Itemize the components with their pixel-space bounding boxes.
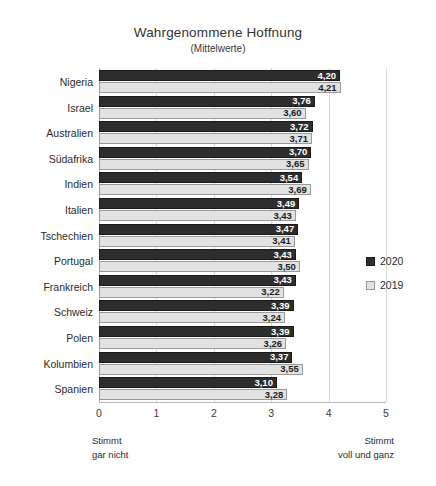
bar-value-label: 3,72	[290, 122, 309, 132]
bar-2019: 3,69	[99, 184, 311, 195]
category-label: Kolumbien	[0, 358, 93, 370]
legend-item-2019[interactable]: 2019	[366, 276, 436, 294]
category-label: Schweiz	[0, 306, 93, 318]
bar-2019: 3,65	[99, 159, 309, 170]
bar-2019: 3,71	[99, 133, 312, 144]
bar-value-label: 3,22	[261, 287, 280, 297]
bar-value-label: 3,24	[262, 313, 281, 323]
bar-2020: 3,76	[99, 96, 315, 107]
chart-subtitle: (Mittelwerte)	[0, 42, 436, 56]
legend-label: 2020	[380, 255, 403, 267]
bar-2019: 3,50	[99, 261, 300, 272]
category-axis-labels: NigeriaIsraelAustralienSüdafrikaIndienIt…	[0, 68, 93, 402]
category-label: Portugal	[0, 255, 93, 267]
legend-swatch-icon	[366, 281, 375, 290]
category-label: Israel	[0, 102, 93, 114]
bar-group: 3,723,71	[99, 121, 386, 146]
bar-2020: 3,39	[99, 326, 294, 337]
anchor-label-low: Stimmt gar nicht	[92, 434, 128, 462]
bar-value-label: 4,20	[318, 71, 337, 81]
bar-value-label: 3,76	[292, 96, 311, 106]
bar-2019: 3,26	[99, 338, 286, 349]
bar-2020: 3,54	[99, 172, 302, 183]
bar-2019: 3,28	[99, 389, 287, 400]
bar-2020: 3,70	[99, 147, 311, 158]
bar-2020: 3,43	[99, 275, 296, 286]
category-label: Spanien	[0, 383, 93, 395]
bar-value-label: 3,43	[273, 275, 292, 285]
bar-value-label: 3,70	[289, 147, 308, 157]
x-tick-label: 2	[211, 406, 217, 420]
bar-value-label: 3,43	[273, 211, 292, 221]
bar-value-label: 3,37	[270, 352, 289, 362]
bar-2020: 3,72	[99, 121, 313, 132]
category-label: Südafrika	[0, 153, 93, 165]
anchor-low-line2: gar nicht	[92, 448, 128, 462]
bar-value-label: 3,49	[277, 199, 296, 209]
category-label: Australien	[0, 127, 93, 139]
category-label: Nigeria	[0, 76, 93, 88]
bar-value-label: 4,21	[318, 83, 337, 93]
legend-item-2020[interactable]: 2020	[366, 252, 436, 270]
bar-2020: 4,20	[99, 70, 340, 81]
bar-2019: 3,24	[99, 312, 285, 323]
category-label: Polen	[0, 332, 93, 344]
chart-container: Wahrgenommene Hoffnung (Mittelwerte) Nig…	[0, 0, 436, 486]
bar-group: 4,204,21	[99, 70, 386, 95]
chart-title-block: Wahrgenommene Hoffnung (Mittelwerte)	[0, 24, 436, 56]
bar-value-label: 3,71	[289, 134, 308, 144]
bar-group: 3,103,28	[99, 377, 386, 402]
bar-2019: 3,22	[99, 287, 284, 298]
bar-2020: 3,37	[99, 352, 292, 363]
bar-value-label: 3,10	[254, 378, 273, 388]
bar-group: 3,703,65	[99, 147, 386, 172]
bar-2019: 3,41	[99, 236, 295, 247]
category-label: Italien	[0, 204, 93, 216]
bar-group: 3,373,55	[99, 352, 386, 377]
gridline-5	[386, 68, 387, 402]
bar-2019: 3,60	[99, 108, 306, 119]
bar-value-label: 3,26	[264, 339, 283, 349]
bar-2019: 3,43	[99, 210, 296, 221]
bar-2020: 3,10	[99, 377, 277, 388]
bar-2020: 3,47	[99, 224, 298, 235]
x-tick-label: 0	[96, 406, 102, 420]
bar-value-label: 3,39	[271, 327, 290, 337]
bar-group: 3,493,43	[99, 198, 386, 223]
bar-value-label: 3,69	[288, 185, 307, 195]
plot-area: 4,204,213,763,603,723,713,703,653,543,69…	[99, 68, 386, 402]
bar-value-label: 3,41	[272, 236, 291, 246]
x-tick-label: 3	[268, 406, 274, 420]
legend-label: 2019	[380, 279, 403, 291]
bar-group: 3,433,50	[99, 249, 386, 274]
bar-group: 3,393,26	[99, 326, 386, 351]
legend-swatch-icon	[366, 257, 375, 266]
x-tick-label: 1	[153, 406, 159, 420]
chart-title: Wahrgenommene Hoffnung	[0, 24, 436, 42]
bar-2020: 3,49	[99, 198, 299, 209]
bar-2019: 3,55	[99, 364, 303, 375]
bar-value-label: 3,54	[280, 173, 299, 183]
bar-value-label: 3,50	[277, 262, 296, 272]
bar-value-label: 3,28	[265, 390, 284, 400]
anchor-low-line1: Stimmt	[92, 434, 128, 448]
bar-rows: 4,204,213,763,603,723,713,703,653,543,69…	[99, 68, 386, 402]
bar-value-label: 3,47	[276, 224, 295, 234]
category-label: Frankreich	[0, 281, 93, 293]
bar-2019: 4,21	[99, 82, 341, 93]
bar-group: 3,473,41	[99, 224, 386, 249]
bar-value-label: 3,43	[273, 250, 292, 260]
bar-2020: 3,39	[99, 300, 294, 311]
bar-value-label: 3,55	[280, 364, 299, 374]
bar-value-label: 3,39	[271, 301, 290, 311]
category-label: Tschechien	[0, 230, 93, 242]
bar-group: 3,393,24	[99, 300, 386, 325]
bar-group: 3,433,22	[99, 275, 386, 300]
x-axis-ticks: 012345	[99, 406, 386, 422]
bar-group: 3,763,60	[99, 96, 386, 121]
bar-value-label: 3,65	[286, 159, 305, 169]
x-tick-label: 4	[326, 406, 332, 420]
anchor-label-high: Stimmt voll und ganz	[338, 434, 394, 462]
anchor-high-line2: voll und ganz	[338, 448, 394, 462]
bar-2020: 3,43	[99, 249, 296, 260]
